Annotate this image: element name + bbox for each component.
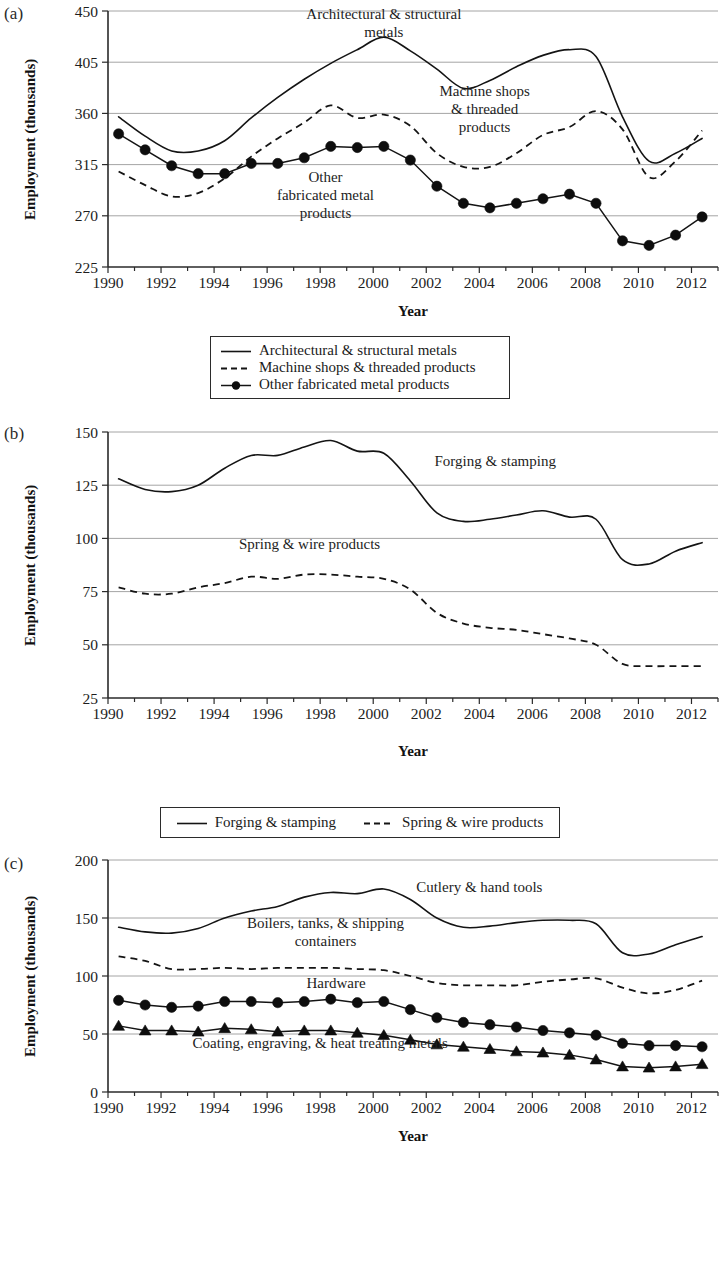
data-point-marker	[352, 998, 362, 1008]
y-tick-label: 270	[75, 207, 99, 224]
y-tick-label: 50	[83, 636, 99, 653]
data-point-marker	[379, 996, 389, 1006]
panel-c-x-axis-title: Year	[108, 1128, 718, 1145]
x-tick-label: 1994	[199, 1099, 230, 1116]
data-point-marker	[114, 129, 124, 139]
data-point-marker	[538, 1025, 548, 1035]
chart-annotation-0: Architectural & structuralmetals	[306, 6, 461, 40]
y-tick-label: 0	[90, 1084, 98, 1101]
x-tick-label: 2008	[570, 705, 601, 722]
x-tick-label: 1996	[252, 1099, 283, 1116]
x-tick-label: 2008	[570, 274, 601, 291]
data-point-marker	[697, 212, 707, 222]
x-tick-label: 1996	[252, 705, 283, 722]
axes: 2252703153604054501990199219941996199820…	[75, 3, 718, 292]
y-tick-label: 125	[75, 477, 99, 494]
x-tick-label: 1992	[146, 1099, 177, 1116]
data-point-marker	[485, 1020, 495, 1030]
x-tick-label: 1990	[93, 1099, 124, 1116]
data-point-marker	[114, 995, 124, 1005]
data-point-marker	[405, 155, 415, 165]
x-tick-label: 2012	[676, 274, 707, 291]
data-point-marker	[564, 1028, 574, 1038]
x-tick-label: 2006	[517, 1099, 548, 1116]
panel-b-plot: 2550751001251501990199219941996199820002…	[0, 410, 723, 740]
x-tick-label: 1992	[146, 274, 177, 291]
x-tick-label: 2010	[623, 705, 654, 722]
data-point-marker	[670, 1041, 680, 1051]
y-tick-label: 225	[75, 259, 99, 276]
x-tick-label: 1998	[305, 1099, 336, 1116]
data-point-marker	[326, 994, 336, 1004]
y-tick-label: 100	[75, 530, 99, 547]
chart-annotation-1: Boilers, tanks, & shippingcontainers	[247, 915, 405, 949]
data-point-marker	[352, 142, 362, 152]
series-1	[119, 574, 702, 666]
x-tick-label: 2010	[623, 1099, 654, 1116]
y-tick-label: 100	[75, 968, 99, 985]
panel-b-x-axis-title: Year	[108, 743, 718, 760]
y-tick-label: 405	[75, 54, 99, 71]
data-point-marker	[140, 1000, 150, 1010]
legend-key-solid-line	[219, 344, 253, 358]
chart-annotation-2: Otherfabricated metalproducts	[277, 169, 374, 221]
axes: 2550751001251501990199219941996199820002…	[75, 424, 718, 723]
y-tick-label: 25	[83, 690, 99, 707]
x-tick-label: 2000	[358, 1099, 389, 1116]
x-tick-label: 2012	[676, 705, 707, 722]
chart-annotation-1: Spring & wire products	[239, 536, 380, 552]
x-tick-label: 1990	[93, 705, 124, 722]
x-tick-label: 2002	[411, 705, 442, 722]
data-point-marker	[299, 996, 309, 1006]
panel-a-x-axis-title: Year	[108, 303, 718, 320]
data-point-marker	[511, 198, 521, 208]
series-group	[114, 37, 708, 250]
data-point-marker	[167, 161, 177, 171]
x-tick-label: 2002	[411, 1099, 442, 1116]
data-point-marker	[220, 169, 230, 179]
x-tick-label: 2004	[464, 274, 495, 291]
legend-entry-label: Other fabricated metal products	[253, 376, 449, 393]
x-tick-label: 2002	[411, 274, 442, 291]
data-point-marker	[140, 145, 150, 155]
x-tick-label: 1994	[199, 705, 230, 722]
x-tick-label: 2000	[358, 705, 389, 722]
x-tick-label: 2012	[676, 1099, 707, 1116]
y-tick-label: 50	[83, 1026, 99, 1043]
legend-b-entry-1: Spring & wire products	[362, 813, 543, 832]
data-point-marker	[432, 181, 442, 191]
y-tick-label: 450	[75, 3, 99, 20]
data-point-marker	[246, 158, 256, 168]
y-tick-label: 150	[75, 424, 99, 441]
x-tick-label: 2006	[517, 705, 548, 722]
legend-key-solid-line	[175, 816, 209, 830]
data-point-marker	[697, 1042, 707, 1052]
y-tick-label: 315	[75, 156, 99, 173]
data-point-marker	[220, 996, 230, 1006]
y-tick-label: 75	[83, 583, 99, 600]
series-1	[119, 956, 702, 993]
data-point-marker	[617, 236, 627, 246]
x-tick-label: 1994	[199, 274, 230, 291]
x-tick-label: 2004	[464, 1099, 495, 1116]
chart-annotation-0: Cutlery & hand tools	[416, 879, 542, 895]
series-0	[119, 440, 702, 565]
legend-key-dashed-line	[362, 816, 396, 830]
panel-a-legend: Architectural & structural metalsMachine…	[210, 336, 510, 399]
legend-a-entry-2: Other fabricated metal products	[219, 376, 499, 393]
chart-annotation-1: Machine shops& threadedproducts	[439, 83, 530, 135]
panel-c-plot: 0501001502001990199219941996199820002002…	[0, 840, 723, 1140]
data-point-marker	[670, 230, 680, 240]
chart-annotation-2: Hardware	[307, 975, 366, 991]
x-tick-label: 1998	[305, 274, 336, 291]
data-point-marker	[113, 1020, 125, 1030]
data-point-marker	[219, 1023, 231, 1033]
legend-key-dashed-line	[219, 361, 253, 375]
data-point-marker	[617, 1038, 627, 1048]
x-tick-label: 1990	[93, 274, 124, 291]
legend-a-entry-1: Machine shops & threaded products	[219, 359, 499, 376]
legend-entry-label: Forging & stamping	[209, 814, 336, 831]
legend-entry-label: Spring & wire products	[396, 814, 543, 831]
data-point-marker	[273, 158, 283, 168]
x-tick-label: 2000	[358, 274, 389, 291]
